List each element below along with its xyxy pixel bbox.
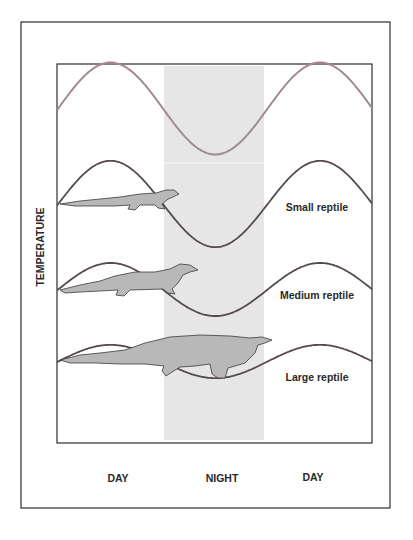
- x-tick-label-day-2: DAY: [302, 471, 323, 483]
- series-label-small: Small reptile: [286, 201, 349, 213]
- series-label-large: Large reptile: [285, 371, 348, 383]
- y-axis-label: TEMPERATURE: [34, 207, 46, 286]
- x-tick-label-day-1: DAY: [107, 472, 128, 484]
- small-reptile-silhouette: [60, 190, 179, 210]
- night-shaded-band: [164, 66, 264, 440]
- x-tick-label-night: NIGHT: [206, 472, 239, 484]
- reptile-temperature-diagram: Small reptile Medium reptile Large repti…: [0, 0, 413, 540]
- series-label-medium: Medium reptile: [280, 289, 354, 301]
